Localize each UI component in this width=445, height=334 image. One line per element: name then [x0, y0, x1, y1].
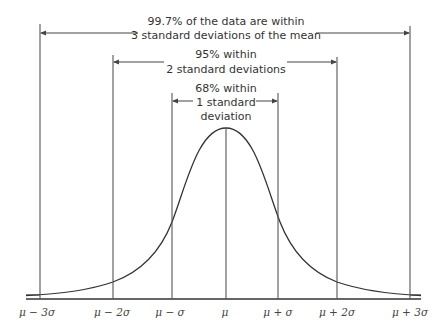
axis-label-minus-2sd: μ − 2σ — [94, 306, 131, 318]
label-1sd-line2: 1 standard — [196, 96, 255, 109]
label-3sd-line1: 99.7% of the data are within — [147, 15, 304, 28]
axis-label-minus-1sd: μ − σ — [155, 306, 185, 318]
label-1sd-line1: 68% within — [195, 82, 256, 95]
normal-distribution-diagram: 99.7% of the data are within 3 standard … — [0, 0, 445, 334]
axis-label-plus-1sd: μ + σ — [263, 306, 293, 318]
label-1sd-line3: deviation — [200, 110, 251, 123]
label-2sd-line2: 2 standard deviations — [166, 63, 286, 76]
x-axis — [26, 295, 421, 299]
label-2sd-line1: 95% within — [195, 48, 256, 61]
axis-label-plus-2sd: μ + 2σ — [319, 306, 356, 318]
axis-label-plus-3sd: μ + 3σ — [392, 306, 429, 318]
axis-label-mean: μ — [222, 306, 229, 318]
axis-label-minus-3sd: μ − 3σ — [19, 306, 56, 318]
bell-curve — [26, 128, 421, 296]
label-3sd-line2: 3 standard deviations of the mean — [131, 29, 321, 42]
